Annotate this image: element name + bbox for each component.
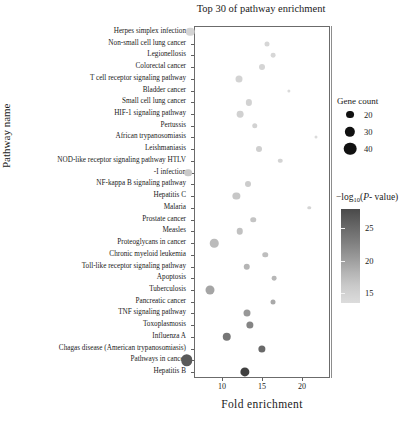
y-axis-tick-label: Herpes simplex infection — [114, 28, 191, 35]
size-legend-label: 40 — [364, 144, 373, 154]
data-point — [271, 53, 276, 58]
size-legend-rows: 203040 — [336, 106, 408, 157]
y-axis-tick-label: Proteoglycans in cancer — [117, 239, 191, 246]
data-point — [264, 41, 269, 46]
data-point — [181, 355, 193, 367]
colorbar — [341, 209, 360, 303]
colorbar-tick-label: 20 — [365, 256, 374, 266]
y-axis-tick-label: Influenza A — [152, 333, 191, 340]
y-axis-tick-label: Small cell lung cancer — [122, 99, 191, 106]
data-point — [245, 181, 251, 187]
size-legend-title: Gene count — [337, 96, 408, 106]
y-axis-tick-label: Pertussis — [160, 122, 191, 129]
data-point — [258, 345, 265, 352]
y-axis-tick-label: T cell receptor signaling pathway — [90, 75, 191, 82]
size-legend-entry: 40 — [336, 140, 408, 157]
data-point — [235, 75, 242, 82]
y-axis-tick-label: Leishmaniasis — [145, 146, 191, 153]
data-point — [243, 310, 250, 317]
y-axis-tick-label: Bladder cancer — [143, 87, 191, 94]
data-point — [223, 333, 232, 342]
x-axis-tick-mark — [302, 378, 303, 381]
y-axis-tick-label: Apoptosis — [157, 275, 191, 282]
page-title: Top 30 of pathway enrichment — [193, 3, 329, 14]
data-point — [210, 239, 219, 248]
data-point — [262, 252, 268, 258]
data-point — [278, 159, 283, 164]
chart-figure: Top 30 of pathway enrichment Pathway nam… — [0, 0, 408, 425]
y-axis-tick-label: Hepatitis B — [153, 369, 191, 376]
x-axis-tick-label: 10 — [218, 382, 226, 391]
data-point — [259, 64, 265, 70]
y-axis-tick-label: Non-small cell lung cancer — [108, 40, 191, 47]
size-legend-dot — [346, 111, 354, 119]
data-points-layer — [195, 27, 329, 377]
x-axis-tick-label: 20 — [298, 382, 306, 391]
y-axis-tick-label: Hepatitis C — [153, 193, 191, 200]
y-axis-tick-label: NOD-like receptor signaling pathway HTLV — [57, 157, 191, 164]
y-axis-tick-label: Toxoplasmosis — [143, 322, 191, 329]
data-point — [185, 169, 193, 177]
data-point — [272, 276, 277, 281]
size-legend: Gene count 203040 — [336, 96, 408, 157]
x-axis-tick-mark — [222, 378, 223, 381]
colorbar-tick-label: 15 — [365, 288, 374, 298]
colorbar-tick-label: 25 — [365, 223, 374, 233]
size-legend-label: 30 — [364, 127, 373, 137]
size-legend-entry: 30 — [336, 123, 408, 140]
data-point — [206, 286, 215, 295]
color-legend-title: −log10(P- value) — [336, 192, 408, 203]
y-axis-tick-label: Toll-like receptor signaling pathway — [82, 263, 191, 270]
y-axis-tick-label: Malaria — [164, 204, 191, 211]
y-axis-tick-label: Pancreatic cancer — [136, 298, 191, 305]
colorbar-tick-mark — [341, 228, 345, 229]
colorbar-wrap: 252015 — [336, 209, 408, 305]
data-point — [246, 99, 252, 105]
size-legend-dot — [345, 126, 355, 136]
data-point — [315, 136, 318, 139]
data-point — [256, 146, 262, 152]
data-point — [244, 263, 251, 270]
colorbar-tick-mark — [341, 261, 345, 262]
y-axis-tick-label: TNF signaling pathway — [118, 310, 191, 317]
size-legend-entry: 20 — [336, 106, 408, 123]
data-point — [271, 299, 276, 304]
y-axis-tick-label: HIF-1 signaling pathway — [114, 110, 191, 117]
y-axis-tick-label: Chagas disease (American trypanosomiasis… — [59, 345, 191, 352]
data-point — [307, 206, 311, 210]
data-point — [236, 228, 243, 235]
color-legend: −log10(P- value) 252015 — [336, 192, 408, 305]
size-legend-dot — [344, 142, 357, 155]
x-axis-tick-mark — [262, 378, 263, 381]
y-axis-tick-label: NF-kappa B signaling pathway — [96, 181, 191, 188]
data-point — [246, 322, 253, 329]
y-axis-tick-label: Colorectal cancer — [136, 63, 191, 70]
colorbar-tick-mark — [341, 293, 345, 294]
data-point — [288, 89, 291, 92]
plot-panel — [194, 26, 330, 378]
data-point — [233, 193, 240, 200]
size-legend-label: 20 — [364, 110, 373, 120]
y-axis-tick-label: African trypanosomiasis — [116, 134, 191, 141]
data-point — [241, 368, 250, 377]
y-axis-tick-label: Tuberculosis — [149, 286, 191, 293]
legend-divider — [331, 26, 332, 378]
data-point — [186, 28, 195, 37]
data-point — [250, 217, 256, 223]
y-axis-tick-labels: Herpes simplex infectionNon-small cell l… — [0, 0, 191, 425]
data-point — [237, 111, 244, 118]
y-axis-tick-label: Prostate cancer — [142, 216, 191, 223]
y-axis-tick-label: Measles — [162, 228, 191, 235]
data-point — [252, 123, 258, 129]
x-axis-title: Fold enrichment — [194, 398, 330, 410]
y-axis-tick-label: Chronic myeloid leukemia — [109, 251, 191, 258]
y-axis-tick-label: Legionellosis — [147, 52, 191, 59]
x-axis-tick-label: 15 — [258, 382, 266, 391]
